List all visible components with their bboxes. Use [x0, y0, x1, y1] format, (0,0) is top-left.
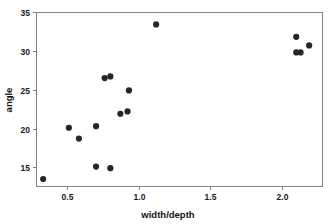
data-point: [40, 176, 46, 182]
data-point: [117, 111, 123, 117]
scatter-plot-figure: 1520253035 0.51.01.52.0 width/depth angl…: [0, 0, 336, 224]
data-point: [102, 75, 108, 81]
y-axis-ticks: 1520253035: [21, 8, 36, 173]
x-tick-label: 2.0: [277, 192, 289, 202]
y-tick-label: 25: [21, 86, 31, 96]
axis-frame: [37, 13, 323, 187]
data-point: [293, 34, 299, 40]
data-point: [107, 165, 113, 171]
data-point: [306, 42, 312, 48]
data-point: [93, 123, 99, 129]
y-tick-label: 30: [21, 47, 31, 57]
x-axis-title: width/depth: [140, 209, 194, 220]
data-point: [126, 87, 132, 93]
data-point: [93, 163, 99, 169]
data-point: [153, 21, 159, 27]
x-axis-ticks: 0.51.01.52.0: [62, 187, 289, 202]
data-point: [76, 136, 82, 142]
data-point: [124, 108, 130, 114]
x-tick-label: 1.5: [205, 192, 217, 202]
y-axis-title: angle: [3, 88, 14, 113]
x-tick-label: 0.5: [62, 192, 74, 202]
y-tick-label: 15: [21, 163, 31, 173]
data-points-group: [40, 21, 312, 182]
x-tick-label: 1.0: [134, 192, 146, 202]
data-point: [66, 125, 72, 131]
y-tick-label: 35: [21, 8, 31, 18]
y-tick-label: 20: [21, 125, 31, 135]
plot-canvas: 1520253035 0.51.01.52.0 width/depth angl…: [0, 0, 336, 224]
data-point: [107, 73, 113, 79]
data-point: [297, 49, 303, 55]
